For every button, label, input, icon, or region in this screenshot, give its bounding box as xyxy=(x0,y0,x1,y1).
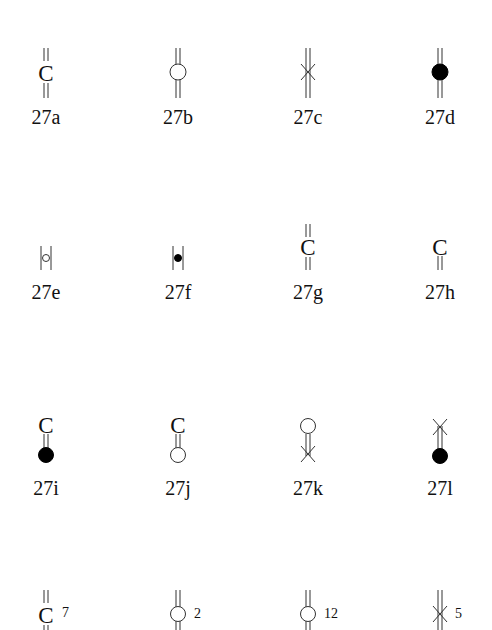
symbol-27g: C 27g xyxy=(263,224,353,270)
double-line-open-circle-icon xyxy=(263,590,353,630)
c-linked-open-circle-icon: C xyxy=(133,416,223,466)
svg-text:C: C xyxy=(38,413,53,438)
symbol-27k: 27k xyxy=(263,416,353,466)
bracketed-filled-circle-icon xyxy=(133,246,223,272)
open-circle-linked-cross-icon xyxy=(263,416,353,466)
symbol-row4-c: C 7 xyxy=(1,590,91,630)
label-27g: 27g xyxy=(263,282,353,302)
double-line-c-icon: C xyxy=(1,590,91,630)
symbol-27b: 27b xyxy=(133,48,223,98)
count-value: 5 xyxy=(455,607,462,621)
count-value: 7 xyxy=(62,606,69,620)
symbol-27d: 27d xyxy=(395,48,485,98)
label-27a: 27a xyxy=(1,107,91,127)
double-line-open-circle-icon xyxy=(133,590,223,630)
symbol-27j: C 27j xyxy=(133,416,223,466)
svg-text:C: C xyxy=(432,235,447,260)
double-line-cross-icon xyxy=(263,48,353,98)
symbol-row4-open-circle-b: 12 xyxy=(263,590,353,630)
label-27c: 27c xyxy=(263,107,353,127)
c-lower-double-line-icon: C xyxy=(395,236,485,270)
bracketed-open-circle-icon xyxy=(1,246,91,272)
symbol-row4-cross: 5 xyxy=(395,590,485,630)
label-27f: 27f xyxy=(133,282,223,302)
svg-text:C: C xyxy=(170,413,185,438)
symbol-27h: C 27h xyxy=(395,236,485,270)
double-line-open-circle-icon xyxy=(133,48,223,98)
symbol-27f: 27f xyxy=(133,246,223,272)
label-27j: 27j xyxy=(133,478,223,498)
count-value: 12 xyxy=(324,607,338,621)
label-27i: 27i xyxy=(1,478,91,498)
cross-linked-filled-circle-icon xyxy=(395,416,485,466)
symbol-27c: 27c xyxy=(263,48,353,98)
label-27d: 27d xyxy=(395,107,485,127)
symbol-27e: 27e xyxy=(1,246,91,272)
double-line-c-icon: C xyxy=(1,48,91,98)
label-27k: 27k xyxy=(263,478,353,498)
double-line-c-icon: C xyxy=(263,224,353,270)
symbol-27a: C 27a xyxy=(1,48,91,98)
symbol-27i: C 27i xyxy=(1,416,91,466)
count-value: 2 xyxy=(194,607,201,621)
symbol-27l: 27l xyxy=(395,416,485,466)
double-line-filled-circle-icon xyxy=(395,48,485,98)
double-line-cross-icon xyxy=(395,590,485,630)
label-27e: 27e xyxy=(1,282,91,302)
svg-text:C: C xyxy=(38,61,53,86)
label-27l: 27l xyxy=(395,478,485,498)
label-27b: 27b xyxy=(133,107,223,127)
svg-text:C: C xyxy=(300,235,315,260)
svg-text:C: C xyxy=(38,603,53,628)
symbol-row4-open-circle-a: 2 xyxy=(133,590,223,630)
label-27h: 27h xyxy=(395,282,485,302)
c-linked-filled-circle-icon: C xyxy=(1,416,91,466)
